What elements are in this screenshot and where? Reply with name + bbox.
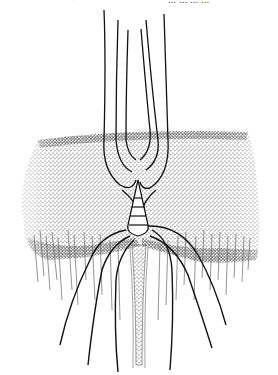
illustration	[0, 0, 278, 375]
